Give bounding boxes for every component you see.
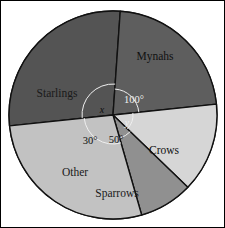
pie-chart-figure: MynahsCrowsSparrowsOtherStarlings 100°xy… [0,0,225,228]
angle-x-label: x [99,104,105,115]
slice-label-crows: Crows [149,144,180,156]
angle-y-label: y [124,117,130,128]
slice-label-sparrows: Sparrows [95,187,139,200]
angle-100-label: 100° [124,94,144,105]
angle-50-label: 50° [109,134,124,145]
slice-label-starlings: Starlings [37,87,78,100]
angle-30-label: 30° [83,135,98,146]
slice-label-other: Other [62,166,88,178]
pie-chart-svg: MynahsCrowsSparrowsOtherStarlings 100°xy… [1,1,224,227]
slice-label-mynahs: Mynahs [136,50,174,63]
